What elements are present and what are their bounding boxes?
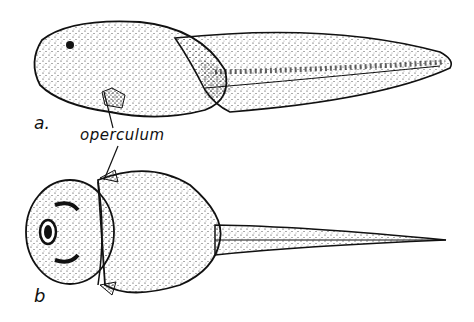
tadpole-b-dorsal (26, 170, 446, 295)
tadpole-illustration (0, 0, 474, 322)
label-operculum: operculum (80, 126, 165, 144)
label-b: b (34, 285, 45, 306)
label-a: a. (34, 113, 50, 133)
tadpole-a-lateral (34, 21, 451, 116)
